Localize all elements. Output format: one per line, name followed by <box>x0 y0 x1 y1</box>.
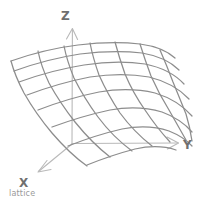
mesh-line-v1 <box>11 43 175 61</box>
mesh-line-u1 <box>11 61 87 166</box>
lattice-surface-svg: Z Y X <box>0 0 202 207</box>
lattice-mesh <box>11 42 192 166</box>
axis-label-z: Z <box>61 9 70 23</box>
figure-caption: lattice <box>9 189 35 198</box>
mesh-line-u4 <box>90 43 152 146</box>
axis-x-line <box>39 144 73 172</box>
lattice-figure: Z Y X <box>0 0 202 207</box>
axis-label-x: X <box>19 176 29 190</box>
axis-label-y: Y <box>182 138 192 152</box>
axis-y-line <box>72 143 178 144</box>
